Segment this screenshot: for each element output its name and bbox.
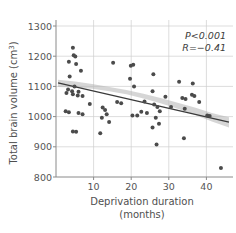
data-point — [66, 87, 70, 91]
data-point — [71, 46, 75, 50]
x-axis-tick-labels: 10 20 30 40 — [88, 181, 213, 192]
data-point — [184, 97, 188, 101]
data-point — [77, 111, 81, 115]
data-point — [130, 113, 134, 117]
data-point — [76, 93, 80, 97]
data-point — [158, 109, 162, 113]
data-point — [192, 94, 196, 98]
data-point — [100, 116, 104, 120]
data-point — [151, 72, 155, 76]
scatter-plot: 1300 1200 1100 1000 900 800 — [0, 0, 236, 233]
data-point — [169, 105, 173, 109]
data-point — [74, 130, 78, 134]
regression-group — [58, 80, 229, 128]
y-axis-title: Total brain volume (cm3) — [8, 41, 19, 165]
data-point — [208, 114, 212, 118]
data-point — [77, 90, 81, 94]
correlation-annotation: R=−0.41 — [182, 42, 226, 53]
data-point — [155, 105, 159, 109]
data-point — [67, 110, 71, 114]
data-point — [197, 100, 201, 104]
data-point — [98, 131, 102, 135]
data-point — [79, 69, 83, 73]
p-value-annotation: P<0.001 — [185, 30, 226, 41]
y-tick-label-800: 800 — [34, 172, 52, 183]
data-point — [71, 92, 75, 96]
data-point — [74, 62, 78, 66]
x-tick-label-10: 10 — [88, 181, 100, 192]
data-point — [143, 100, 147, 104]
data-point — [163, 95, 167, 99]
data-point — [73, 84, 77, 88]
data-point — [115, 100, 119, 104]
data-point — [64, 91, 68, 95]
data-point — [81, 94, 85, 98]
data-point — [135, 113, 139, 117]
x-axis-title-line1: Deprivation duration — [90, 196, 194, 207]
y-axis-title-main: Total brain volume (cm — [8, 50, 19, 166]
data-point — [139, 110, 143, 114]
y-tick-label-1200: 1200 — [28, 51, 52, 62]
y-tick-label-1100: 1100 — [28, 81, 52, 92]
data-point — [154, 116, 158, 120]
y-tick-label-1000: 1000 — [28, 111, 52, 122]
data-point — [182, 136, 186, 140]
data-point — [103, 108, 107, 112]
chart-figure: 1300 1200 1100 1000 900 800 — [0, 0, 236, 233]
y-tick-label-1300: 1300 — [28, 21, 52, 32]
data-point — [131, 63, 135, 67]
x-tick-label-40: 40 — [200, 181, 212, 192]
stats-annotation: P<0.001 R=−0.41 — [182, 30, 226, 53]
y-axis-tick-labels: 1300 1200 1100 1000 900 800 — [28, 21, 52, 183]
x-tick-label-30: 30 — [163, 181, 175, 192]
data-point — [105, 112, 109, 116]
data-point — [128, 77, 132, 81]
data-point — [68, 74, 72, 78]
y-tick-label-900: 900 — [34, 141, 52, 152]
data-point — [73, 55, 77, 59]
data-point — [88, 102, 92, 106]
data-point — [81, 112, 85, 116]
svg-text:Total brain volume (cm3): Total brain volume (cm3) — [8, 41, 19, 165]
data-point — [145, 111, 149, 115]
data-point — [119, 101, 123, 105]
data-point — [183, 107, 187, 111]
data-point — [152, 103, 156, 107]
x-axis-title: Deprivation duration (months) — [90, 196, 194, 220]
x-axis-title-line2: (months) — [119, 209, 165, 220]
data-point — [157, 122, 161, 126]
x-tick-label-20: 20 — [125, 181, 137, 192]
confidence-band — [58, 80, 229, 128]
data-point — [107, 120, 111, 124]
data-point — [177, 80, 181, 84]
y-axis-title-close: ) — [8, 41, 19, 45]
data-point — [132, 84, 136, 88]
data-point — [111, 61, 115, 65]
data-point — [155, 142, 159, 146]
data-point — [67, 60, 71, 64]
data-point — [191, 81, 195, 85]
data-points-group — [64, 46, 223, 170]
data-point — [151, 125, 155, 129]
data-point — [219, 166, 223, 170]
data-point — [151, 89, 155, 93]
